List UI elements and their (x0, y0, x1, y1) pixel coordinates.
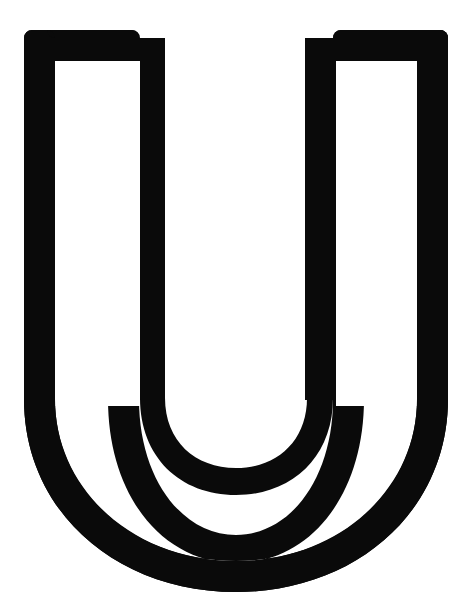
left-stem-counter (55, 61, 140, 406)
right-stem-inner-wall (305, 38, 336, 400)
left-stem-outer-wall (24, 30, 55, 400)
glyph-canvas (0, 0, 472, 604)
left-stem-inner-wall (140, 38, 165, 400)
right-stem-counter (336, 61, 420, 406)
right-stem-outer-wall (417, 30, 448, 400)
right-stem-top-cap (333, 30, 448, 61)
bowl-counter (165, 61, 307, 468)
letter-u-glyph-svg (0, 0, 472, 604)
